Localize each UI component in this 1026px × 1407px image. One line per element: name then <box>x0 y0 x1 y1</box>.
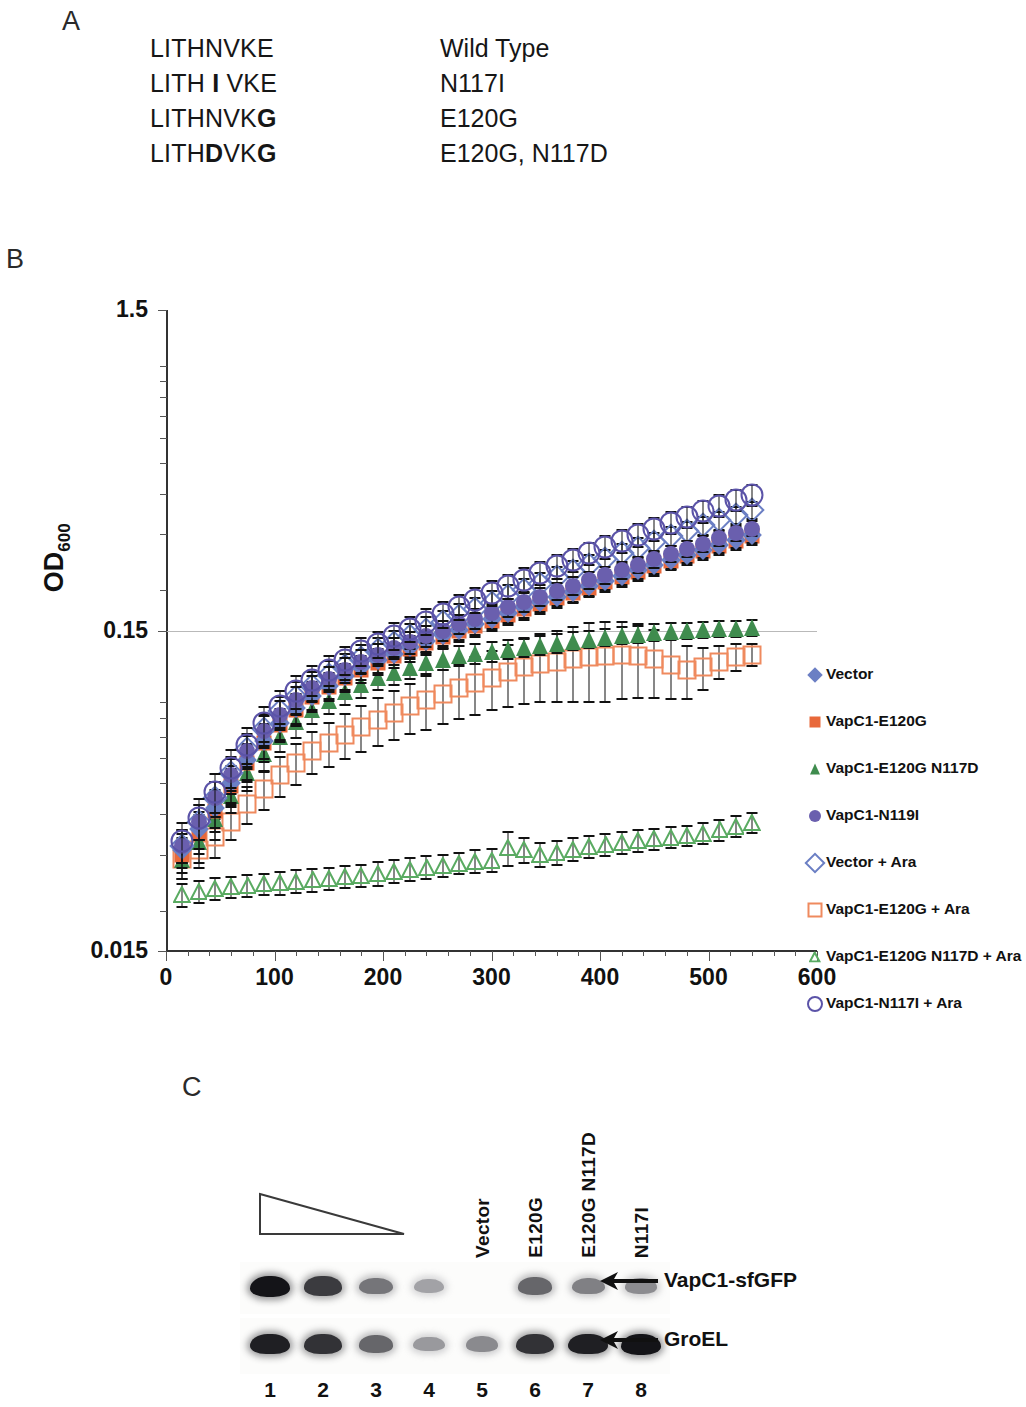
lane-label-e120g-n117d: E120G N117D <box>578 1132 600 1258</box>
legend-item-vapc1-e120g-n117d-ara[interactable]: VapC1-E120G N117D + Ara <box>806 947 1026 966</box>
legend-label: VapC1-E120G N117D <box>826 759 979 777</box>
error-bar <box>524 567 525 593</box>
dilution-wedge-icon <box>258 1192 406 1236</box>
x-tick-minor <box>188 951 189 956</box>
legend-label: VapC1-N117I + Ara <box>826 994 962 1012</box>
lane-number: 6 <box>520 1378 550 1402</box>
series-vapc1-n117i-ara <box>166 310 816 950</box>
x-tick-minor <box>231 951 232 956</box>
blot-band <box>466 1336 498 1352</box>
plot-data-area <box>166 310 816 950</box>
sequence-alignment-table: LITHNVKE Wild Type LITH I VKE N117I LITH… <box>150 34 608 174</box>
error-bar <box>361 637 362 667</box>
x-tick-minor <box>426 951 427 956</box>
x-tick-minor <box>795 951 796 956</box>
x-tick-minor <box>448 951 449 956</box>
error-bar <box>540 561 541 587</box>
error-bar <box>442 601 443 629</box>
legend-marker-square-icon <box>806 901 824 919</box>
x-tick-label: 500 <box>674 964 744 991</box>
x-tick-major <box>600 951 601 961</box>
x-tick-minor <box>253 951 254 956</box>
legend-label: VapC1-N119I <box>826 806 919 824</box>
legend-marker-circle-icon <box>806 807 824 825</box>
y-tick-label: 0.015 <box>8 937 148 964</box>
blot-band <box>250 1334 289 1355</box>
blot-band <box>414 1279 445 1293</box>
blot-band <box>518 1277 553 1294</box>
x-tick-minor <box>513 951 514 956</box>
legend-item-vector[interactable]: Vector <box>806 665 1026 684</box>
blot-band <box>413 1337 444 1352</box>
legend-marker-triangle-icon <box>806 948 824 966</box>
sequence-annotation: E120G <box>440 104 518 133</box>
error-bar <box>507 574 508 600</box>
x-tick-minor <box>643 951 644 956</box>
error-bar <box>279 690 280 725</box>
x-tick-minor <box>470 951 471 956</box>
lane-number: 7 <box>573 1378 603 1402</box>
blot-band <box>359 1278 393 1295</box>
blot-band <box>250 1276 290 1297</box>
legend-item-vapc1-e120g-ara[interactable]: VapC1-E120G + Ara <box>806 900 1026 919</box>
figure-root: A LITHNVKE Wild Type LITH I VKE N117I LI… <box>0 0 1026 1407</box>
lane-number: 5 <box>467 1378 497 1402</box>
legend-item-vapc1-n117i-ara[interactable]: VapC1-N117I + Ara <box>806 994 1026 1013</box>
error-bar <box>589 542 590 567</box>
error-bar <box>312 665 313 697</box>
x-tick-major <box>709 951 710 961</box>
error-bar <box>491 580 492 607</box>
legend-item-vapc1-e120g-n117d[interactable]: VapC1-E120G N117D <box>806 759 1026 778</box>
sequence-annotation: E120G, N117D <box>440 139 608 168</box>
error-bar <box>247 727 248 765</box>
legend-item-vector-ara[interactable]: Vector + Ara <box>806 853 1026 872</box>
error-bar <box>621 529 622 553</box>
panel-c-letter: C <box>182 1072 202 1103</box>
error-bar <box>345 646 346 676</box>
lane-number: 8 <box>626 1378 656 1402</box>
band-label-groel: GroEL <box>664 1327 728 1351</box>
chart-legend: VectorVapC1-E120GVapC1-E120G N117DVapC1-… <box>806 665 1026 1041</box>
lane-number: 2 <box>308 1378 338 1402</box>
error-bar <box>377 631 378 660</box>
x-tick-label: 200 <box>348 964 418 991</box>
x-tick-minor <box>622 951 623 956</box>
lane-label-n117i: N117I <box>631 1207 653 1258</box>
sequence-text: LITHDVKG <box>150 139 440 168</box>
x-tick-minor <box>687 951 688 956</box>
error-bar <box>214 773 215 815</box>
error-bar <box>637 523 638 547</box>
blot-band <box>304 1334 342 1354</box>
x-tick-minor <box>665 951 666 956</box>
legend-label: VapC1-E120G N117D + Ara <box>826 947 1021 965</box>
legend-marker-triangle-icon <box>806 760 824 778</box>
legend-item-vapc1-n119i[interactable]: VapC1-N119I <box>806 806 1026 825</box>
y-tick-label: 0.15 <box>8 617 148 644</box>
panel-a-letter: A <box>62 6 80 37</box>
error-bar <box>556 554 557 580</box>
legend-marker-circle-icon <box>806 995 824 1013</box>
x-tick-minor <box>774 951 775 956</box>
legend-marker-diamond-icon <box>806 666 824 684</box>
x-tick-minor <box>318 951 319 956</box>
x-tick-minor <box>209 951 210 956</box>
y-axis-title: OD600 <box>39 493 74 623</box>
x-tick-label: 0 <box>131 964 201 991</box>
error-bar <box>686 506 687 530</box>
band-label-vapc1-sfgfp: VapC1-sfGFP <box>664 1268 797 1292</box>
blot-band <box>304 1276 341 1295</box>
error-bar <box>393 622 394 651</box>
sequence-annotation: Wild Type <box>440 34 549 63</box>
error-bar <box>605 535 606 560</box>
blot-band <box>359 1335 394 1352</box>
lane-number: 1 <box>255 1378 285 1402</box>
x-tick-minor <box>340 951 341 956</box>
legend-item-vapc1-e120g[interactable]: VapC1-E120G <box>806 712 1026 731</box>
error-bar <box>198 798 199 841</box>
x-tick-minor <box>535 951 536 956</box>
error-bar <box>182 822 183 865</box>
x-tick-minor <box>405 951 406 956</box>
lane-number: 4 <box>414 1378 444 1402</box>
blot-band <box>516 1334 554 1354</box>
error-bar <box>735 489 736 512</box>
